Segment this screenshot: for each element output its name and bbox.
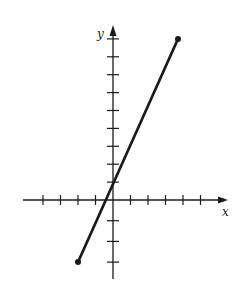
- x-axis-arrow-icon: [218, 197, 228, 204]
- ticks: [43, 39, 201, 262]
- axes: [23, 25, 228, 279]
- endpoint-dot: [175, 36, 181, 42]
- endpoint-dot: [75, 259, 81, 265]
- x-axis-label: x: [222, 205, 229, 219]
- segment-line: [78, 39, 178, 262]
- y-axis-arrow-icon: [110, 25, 117, 36]
- line-segment: [75, 36, 181, 265]
- coordinate-graph: x y: [0, 0, 237, 293]
- y-axis-label: y: [96, 27, 104, 41]
